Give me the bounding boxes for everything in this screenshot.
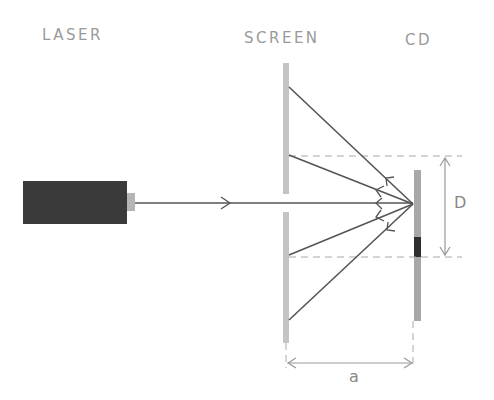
diffracted-ray-lower-1: [289, 204, 413, 255]
laser-body: [23, 181, 127, 224]
screen-lower-segment: [283, 212, 289, 343]
light-rays: [135, 87, 413, 320]
dimension-arrows: [288, 158, 450, 368]
diffraction-setup-diagram: [0, 0, 494, 400]
cd-disc: [414, 170, 421, 321]
laser-nozzle: [127, 193, 135, 211]
diffracted-ray-upper-2: [289, 87, 413, 204]
screen-upper-segment: [283, 63, 289, 194]
diffracted-ray-lower-2: [289, 204, 413, 320]
cd-mark: [414, 237, 421, 257]
diffracted-ray-upper-1: [289, 155, 413, 204]
laser-device: [23, 181, 135, 224]
